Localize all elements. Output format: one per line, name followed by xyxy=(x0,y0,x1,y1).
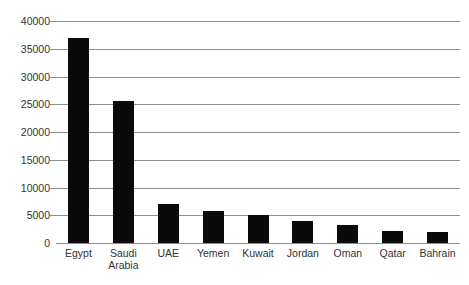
bar xyxy=(382,231,403,243)
bar-chart: 0500010000150002000025000300003500040000… xyxy=(0,0,469,285)
bar-series xyxy=(56,21,460,243)
bar xyxy=(158,204,179,243)
bar xyxy=(248,215,269,243)
bar xyxy=(113,101,134,243)
x-axis-tick-label: Bahrain xyxy=(408,247,468,259)
bar xyxy=(337,225,358,243)
bar xyxy=(427,232,448,243)
axis-baseline xyxy=(56,243,460,244)
bar xyxy=(292,221,313,243)
x-axis: EgyptSaudi ArabiaUAEYemenKuwaitJordanOma… xyxy=(56,247,460,281)
bar xyxy=(68,38,89,243)
bar xyxy=(203,211,224,243)
y-axis-tick-marks xyxy=(0,21,56,243)
